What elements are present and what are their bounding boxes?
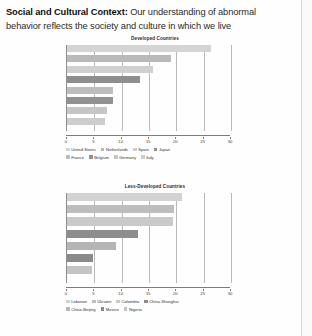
legend-item: Belgium bbox=[89, 155, 109, 160]
legend-item: Lebanon bbox=[66, 299, 87, 304]
legend-item: United States bbox=[66, 147, 96, 152]
axis-tick-label: 10 bbox=[118, 291, 123, 296]
legend-label: China-Beijing bbox=[71, 307, 95, 312]
legend-label: Ukraine bbox=[97, 299, 111, 304]
bar bbox=[67, 107, 107, 114]
legend-item: Nigeria bbox=[124, 307, 142, 312]
legend-swatch bbox=[144, 300, 148, 304]
axis-tick-label: 30 bbox=[228, 139, 233, 144]
axis-tick-label: 20 bbox=[173, 291, 178, 296]
legend-label: Colombia bbox=[122, 299, 139, 304]
legend-swatch bbox=[114, 155, 118, 159]
legend-swatch bbox=[141, 155, 145, 159]
bar bbox=[67, 118, 105, 125]
axis-tick-label: 25 bbox=[200, 139, 205, 144]
page-title: Social and Cultural Context: Our underst… bbox=[6, 6, 278, 33]
axis-tick-label: 0 bbox=[65, 291, 67, 296]
legend-label: France bbox=[71, 155, 84, 160]
legend-item: Mexico bbox=[101, 307, 119, 312]
bar bbox=[67, 66, 153, 73]
axis-tick-label: 30 bbox=[228, 291, 233, 296]
plot-area bbox=[66, 45, 231, 131]
axis-tick-label: 5 bbox=[92, 139, 94, 144]
legend-label: Italy bbox=[146, 155, 154, 160]
legend-item: Japan bbox=[154, 147, 170, 152]
bar bbox=[67, 45, 211, 52]
bar bbox=[67, 217, 173, 225]
page-edge-line bbox=[301, 0, 302, 336]
gridline bbox=[231, 193, 232, 283]
legend-item: Ukraine bbox=[92, 299, 111, 304]
axis-tick-label: 15 bbox=[146, 291, 151, 296]
chart-title: Less-Developed Countries bbox=[62, 184, 248, 189]
axis-tick-label: 20 bbox=[173, 139, 178, 144]
bar bbox=[67, 205, 174, 213]
legend-item: France bbox=[66, 155, 84, 160]
legend-label: Germany bbox=[119, 155, 136, 160]
legend-label: Spain bbox=[138, 147, 148, 152]
slide-page: Social and Cultural Context: Our underst… bbox=[0, 0, 312, 336]
legend-swatch bbox=[133, 148, 137, 152]
bar bbox=[67, 242, 116, 250]
legend-item: China-Shanghai bbox=[144, 299, 179, 304]
legend-swatch bbox=[66, 155, 70, 159]
x-axis bbox=[66, 135, 230, 136]
bar bbox=[67, 230, 138, 238]
chart-title: Developed Countries bbox=[62, 36, 248, 41]
legend-label: Netherlands bbox=[106, 147, 128, 152]
bar bbox=[67, 266, 92, 274]
legend-swatch bbox=[66, 300, 70, 304]
legend-item: Italy bbox=[141, 155, 154, 160]
bars-container bbox=[67, 45, 231, 125]
legend-swatch bbox=[101, 148, 105, 152]
bars-container bbox=[67, 193, 231, 274]
x-axis-ticks: 051015202530 bbox=[66, 137, 230, 146]
chart-developed-countries: Developed Countries 051015202530 United … bbox=[0, 36, 290, 178]
legend-swatch bbox=[116, 300, 120, 304]
legend-item: Spain bbox=[133, 147, 149, 152]
page-right-margin bbox=[302, 0, 312, 336]
legend-label: Japan bbox=[159, 147, 170, 152]
bar bbox=[67, 97, 113, 104]
x-axis bbox=[66, 287, 230, 288]
axis-tick-label: 10 bbox=[118, 139, 123, 144]
legend-swatch bbox=[101, 307, 105, 311]
legend-label: Mexico bbox=[106, 307, 119, 312]
legend-swatch bbox=[154, 148, 158, 152]
legend-label: United States bbox=[71, 147, 96, 152]
bar bbox=[67, 87, 113, 94]
chart-legend: LebanonUkraineColombiaChina-ShanghaiChin… bbox=[66, 299, 252, 313]
bar bbox=[67, 76, 140, 83]
legend-swatch bbox=[89, 155, 93, 159]
axis-tick-label: 0 bbox=[65, 139, 67, 144]
legend-swatch bbox=[66, 307, 70, 311]
legend-label: China-Shanghai bbox=[149, 299, 178, 304]
legend-item: Netherlands bbox=[101, 147, 128, 152]
bar bbox=[67, 193, 182, 201]
x-axis-ticks: 051015202530 bbox=[66, 289, 230, 298]
axis-tick-label: 25 bbox=[200, 291, 205, 296]
chart-legend: United StatesNetherlandsSpainJapanFrance… bbox=[66, 147, 252, 161]
legend-label: Belgium bbox=[94, 155, 109, 160]
legend-swatch bbox=[92, 300, 96, 304]
chart-less-developed-countries: Less-Developed Countries 051015202530 Le… bbox=[0, 184, 290, 332]
legend-swatch bbox=[124, 307, 128, 311]
bar bbox=[67, 55, 171, 62]
axis-tick-label: 5 bbox=[92, 291, 94, 296]
legend-swatch bbox=[66, 148, 70, 152]
bar bbox=[67, 254, 93, 262]
legend-item: Germany bbox=[114, 155, 136, 160]
legend-label: Lebanon bbox=[71, 299, 87, 304]
legend-item: China-Beijing bbox=[66, 307, 96, 312]
page-title-lead: Social and Cultural Context: bbox=[6, 7, 128, 17]
legend-label: Nigeria bbox=[129, 307, 142, 312]
gridline bbox=[231, 45, 232, 131]
legend-item: Colombia bbox=[116, 299, 138, 304]
axis-tick-label: 15 bbox=[146, 139, 151, 144]
plot-area bbox=[66, 193, 231, 283]
